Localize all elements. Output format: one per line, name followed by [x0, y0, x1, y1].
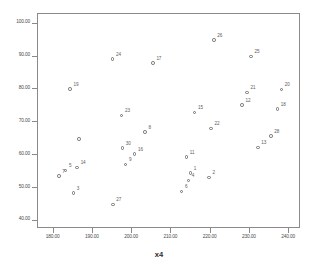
data-point-label: 2 — [213, 171, 215, 176]
y-axis-tick — [32, 121, 37, 122]
data-point — [207, 176, 211, 180]
data-point — [256, 146, 260, 150]
x-axis-tick — [210, 228, 211, 233]
data-point-label: 24 — [116, 53, 121, 58]
x-axis-tick-label: 180.00 — [46, 235, 60, 240]
data-point-label: 17 — [156, 57, 161, 62]
data-point-label: 25 — [255, 50, 260, 55]
plot-area: 1234567891112131415161718192021222324252… — [38, 14, 299, 227]
data-point-label: 6 — [185, 185, 187, 190]
y-axis-tick-label: 60.00 — [19, 152, 30, 157]
data-point — [151, 61, 155, 65]
data-point — [249, 55, 253, 59]
data-point — [280, 88, 284, 92]
data-point-label: 5 — [69, 164, 71, 169]
data-point — [77, 137, 81, 141]
data-point-label: 27 — [116, 198, 121, 203]
data-point — [180, 190, 184, 194]
data-point — [212, 38, 216, 42]
x-axis-tick — [131, 228, 132, 233]
data-point-label: 16 — [138, 148, 143, 153]
data-point-label: 14 — [81, 161, 86, 166]
x-axis-tick-label: 240.00 — [281, 235, 295, 240]
y-axis-tick-label: 50.00 — [19, 185, 30, 190]
y-axis-tick-label: 40.00 — [19, 217, 30, 222]
x-axis-tick-label: 190.00 — [85, 235, 99, 240]
y-axis-tick — [32, 154, 37, 155]
y-axis-tick-label: 90.00 — [19, 53, 30, 58]
data-point — [68, 87, 72, 91]
data-point-label: 30 — [126, 142, 131, 147]
data-point-label: 11 — [190, 151, 195, 156]
y-axis-tick — [32, 187, 37, 188]
x-axis-tick — [288, 228, 289, 233]
data-point-label: 26 — [217, 34, 222, 39]
data-point — [124, 163, 128, 167]
data-point-label: 19 — [74, 83, 79, 88]
data-point — [269, 134, 273, 138]
data-point — [245, 91, 249, 95]
data-point-label: 18 — [281, 103, 286, 108]
plot-frame: 1234567891112131415161718192021222324252… — [37, 13, 300, 228]
data-point — [276, 107, 280, 111]
scatterplot-figure: 1234567891112131415161718192021222324252… — [0, 0, 318, 270]
data-point — [193, 111, 197, 115]
data-point — [209, 127, 213, 131]
data-point — [72, 191, 76, 195]
data-point-label: 21 — [251, 86, 256, 91]
y-axis-tick — [32, 56, 37, 57]
x-axis-tick-label: 220.00 — [203, 235, 217, 240]
data-point-label: 3 — [77, 187, 79, 192]
data-point-label: 8 — [149, 126, 151, 131]
data-point — [143, 130, 147, 134]
data-point-label: 1 — [194, 167, 196, 172]
x-axis-tick — [249, 228, 250, 233]
data-point-label: 12 — [246, 99, 251, 104]
data-point — [111, 57, 115, 61]
data-point — [133, 152, 137, 156]
x-axis-tick — [53, 228, 54, 233]
data-point-label: 28 — [274, 130, 279, 135]
y-axis-tick-label: 70.00 — [19, 119, 30, 124]
data-point — [240, 103, 244, 107]
y-axis-tick — [32, 23, 37, 24]
data-point — [111, 203, 115, 207]
data-point-label: 9 — [129, 158, 131, 163]
y-axis-tick — [32, 220, 37, 221]
data-point — [57, 174, 61, 178]
data-point-label: 15 — [198, 106, 203, 111]
data-point-label: 23 — [125, 109, 130, 114]
data-point — [75, 166, 79, 170]
data-point-label: 13 — [261, 141, 266, 146]
x-axis-tick — [170, 228, 171, 233]
data-point-label: 4 — [192, 174, 194, 179]
data-point-label: 20 — [285, 83, 290, 88]
data-point-label: 7 — [62, 170, 64, 175]
data-point — [185, 155, 189, 159]
x-axis-title: x4 — [0, 250, 318, 259]
data-point — [187, 179, 191, 183]
x-axis-tick-label: 210.00 — [164, 235, 178, 240]
y-axis-tick — [32, 88, 37, 89]
data-point-label: 22 — [215, 122, 220, 127]
y-axis-tick-label: 80.00 — [19, 86, 30, 91]
data-point — [120, 114, 124, 118]
x-axis-tick-label: 200.00 — [124, 235, 138, 240]
data-point — [121, 146, 125, 150]
x-axis-tick — [92, 228, 93, 233]
x-axis-tick-label: 230.00 — [242, 235, 256, 240]
y-axis-tick-label: 100.00 — [16, 20, 30, 25]
